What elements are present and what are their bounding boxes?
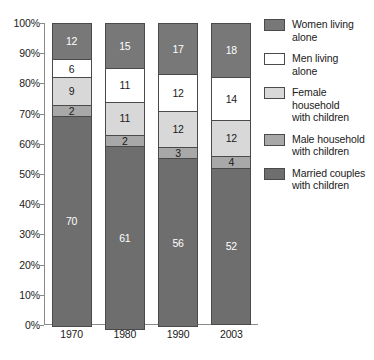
y-tick-label: 80% [19, 78, 40, 89]
y-tick-label: 60% [19, 139, 40, 150]
bar-segment: 2 [105, 135, 145, 147]
bar-segment-value: 12 [226, 133, 237, 144]
bar-segment: 12 [158, 111, 198, 147]
y-tick-label: 50% [19, 169, 40, 180]
legend-label: Married coupleswith children [292, 167, 365, 192]
bar-column: 171212356 [158, 23, 198, 325]
x-tick-label: 1980 [98, 329, 151, 340]
bar-segment: 11 [105, 102, 145, 135]
legend-item: Married coupleswith children [264, 167, 374, 192]
legend-label: Male householdwith children [292, 133, 365, 158]
bar-segment-value: 18 [226, 45, 237, 56]
bar-segment-value: 11 [120, 80, 131, 91]
bar-segment: 70 [52, 116, 92, 327]
plot-area: 100%90%80%70%60%50%40%30%20%10%0% 126927… [0, 0, 258, 360]
bar-stack: 171212356 [158, 23, 198, 325]
bar-segment-value: 12 [172, 88, 183, 99]
bar-segment: 2 [52, 105, 92, 117]
legend-label-line: alone [292, 31, 354, 44]
legend-label-line: with children [292, 111, 349, 124]
chart-legend: Women livingaloneMen livingaloneFemaleho… [264, 18, 374, 201]
bar-column: 151111261 [105, 23, 145, 325]
bar-segment: 4 [211, 156, 251, 168]
bar-segment-value: 12 [172, 124, 183, 135]
y-tick-mark [39, 265, 44, 266]
bar-segment: 12 [52, 23, 92, 59]
bars-container: 1269270151111261171212356181412452 [45, 23, 258, 325]
legend-label: Men livingalone [292, 52, 338, 77]
legend-swatch [264, 19, 285, 31]
legend-item: Women livingalone [264, 18, 374, 43]
legend-label-line: Male household [292, 133, 365, 146]
y-tick-label: 0% [25, 320, 40, 331]
y-tick-label: 20% [19, 259, 40, 270]
y-tick-label: 10% [19, 290, 40, 301]
legend-label-line: Men living [292, 52, 338, 65]
bar-segment: 17 [158, 23, 198, 74]
x-tick-label: 2003 [205, 329, 258, 340]
y-axis: 100%90%80%70%60%50%40%30%20%10%0% [0, 23, 40, 325]
y-tick-label: 100% [14, 18, 40, 29]
bar-segment-value: 52 [226, 241, 237, 252]
legend-swatch [264, 53, 285, 65]
legend-label-line: household [292, 99, 349, 112]
bar-segment-value: 11 [120, 113, 131, 124]
x-tick-label: 1970 [45, 329, 98, 340]
y-tick-mark [39, 53, 44, 54]
y-tick-mark [39, 23, 44, 24]
bar-segment-value: 70 [66, 216, 77, 227]
bar-segment-value: 2 [69, 106, 75, 117]
bar-segment-value: 12 [66, 36, 77, 47]
bar-segment-value: 9 [69, 86, 75, 97]
bar-segment-value: 15 [119, 41, 130, 52]
legend-swatch [264, 134, 285, 146]
bar-segment: 61 [105, 146, 145, 330]
legend-item: Male householdwith children [264, 133, 374, 158]
y-tick-label: 30% [19, 229, 40, 240]
legend-label-line: with children [292, 179, 365, 192]
bar-segment: 15 [105, 23, 145, 68]
bar-segment-value: 6 [69, 64, 75, 75]
bar-segment-value: 61 [119, 233, 130, 244]
bar-segment: 14 [211, 77, 251, 119]
y-tick-label: 70% [19, 108, 40, 119]
y-tick-label: 40% [19, 199, 40, 210]
bar-segment-value: 56 [172, 238, 183, 249]
bar-segment: 12 [211, 120, 251, 156]
legend-label-line: Married couples [292, 167, 365, 180]
legend-item: Men livingalone [264, 52, 374, 77]
legend-label-line: Women living [292, 18, 354, 31]
bar-segment-value: 14 [226, 94, 237, 105]
y-tick-mark [39, 295, 44, 296]
legend-label-line: Female [292, 86, 349, 99]
bar-segment: 56 [158, 158, 198, 327]
y-tick-mark [39, 325, 44, 326]
bar-segment: 18 [211, 23, 251, 77]
y-tick-mark [39, 234, 44, 235]
y-tick-mark [39, 114, 44, 115]
legend-label: Women livingalone [292, 18, 354, 43]
bar-segment: 52 [211, 168, 251, 325]
y-tick-mark [39, 174, 44, 175]
bar-segment-value: 17 [172, 44, 183, 55]
y-tick-label: 90% [19, 48, 40, 59]
bar-segment-value: 3 [175, 148, 181, 159]
y-tick-mark [39, 83, 44, 84]
x-tick-label: 1990 [152, 329, 205, 340]
legend-label-line: with children [292, 145, 365, 158]
legend-item: Femalehouseholdwith children [264, 86, 374, 124]
bar-segment-value: 4 [229, 157, 235, 168]
legend-label-line: alone [292, 65, 338, 78]
bar-segment: 6 [52, 59, 92, 77]
y-tick-mark [39, 144, 44, 145]
bar-stack: 151111261 [105, 23, 145, 325]
y-tick-mark [39, 204, 44, 205]
stacked-bar-chart: 100%90%80%70%60%50%40%30%20%10%0% 126927… [0, 0, 374, 360]
bar-segment: 11 [105, 68, 145, 101]
bar-segment: 12 [158, 74, 198, 110]
x-axis: 1970198019902003 [45, 329, 258, 347]
bar-segment: 3 [158, 147, 198, 159]
bar-stack: 181412452 [211, 23, 251, 325]
legend-swatch [264, 87, 285, 99]
bar-column: 1269270 [52, 23, 92, 325]
